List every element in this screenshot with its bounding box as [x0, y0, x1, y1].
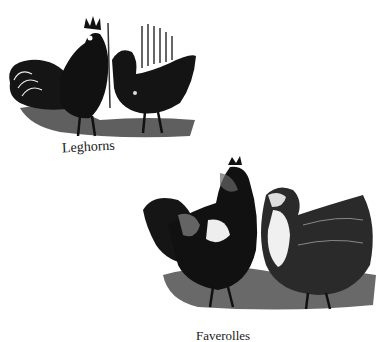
leghorns-caption: Leghorns [62, 138, 116, 157]
faverolles-caption: Faverolles [196, 328, 250, 342]
faverolles-illustration [138, 155, 380, 315]
leghorns-illustration [0, 8, 215, 143]
